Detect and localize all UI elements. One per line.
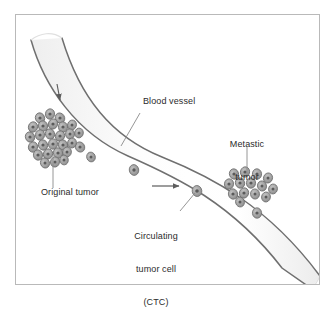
label-metastic-tumor-line2: tumor <box>222 172 272 183</box>
label-original-tumor: Original tumor <box>41 187 99 198</box>
label-ctc-line1: Circulating <box>126 231 186 242</box>
label-ctc-line2: tumor cell <box>126 264 186 275</box>
label-blood-vessel: Blood vessel <box>143 96 195 107</box>
label-metastic-tumor: Metastic tumor <box>222 117 272 205</box>
label-ctc-line3: (CTC) <box>126 297 186 308</box>
label-metastic-tumor-line1: Metastic <box>222 139 272 150</box>
label-circulating-tumor-cell: Circulating tumor cell (CTC) <box>126 209 186 311</box>
